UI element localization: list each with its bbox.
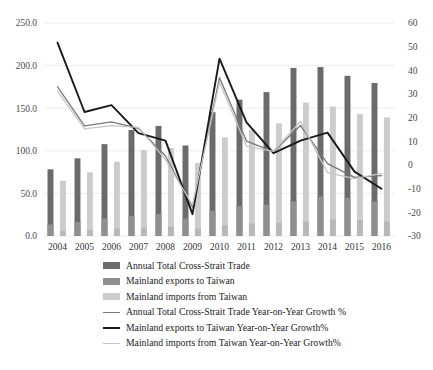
- bar-exports: [264, 205, 270, 236]
- bar-exports-shadow: [249, 223, 255, 236]
- x-axis-ticks: 2004200520062007200820092010201120122013…: [48, 242, 391, 252]
- legend-item-label: Mainland imports from Taiwan: [126, 292, 247, 302]
- bar-imports: [384, 117, 390, 236]
- bar-exports-shadow: [195, 229, 201, 236]
- bar-exports-shadow: [60, 231, 66, 236]
- right-axis-ticks: -30-20-100102030405060: [408, 18, 421, 241]
- left-tick-label: 200.0: [16, 61, 38, 71]
- bar-imports: [60, 181, 66, 236]
- bar-exports: [210, 211, 216, 236]
- right-tick-label: 40: [408, 66, 418, 76]
- bar-exports: [156, 214, 162, 236]
- legend-item[interactable]: Annual Total Cross-Strait Trade: [0, 258, 433, 274]
- legend-item-label: Mainland imports from Taiwan Year-on-Yea…: [126, 338, 341, 348]
- legend-item-label: Annual Total Cross-Strait Trade: [126, 261, 250, 271]
- bar-exports-shadow: [222, 225, 228, 236]
- x-tick-label: 2016: [372, 242, 391, 252]
- bar-exports-shadow: [168, 227, 174, 236]
- x-tick-label: 2011: [237, 242, 256, 252]
- bar-imports: [330, 106, 336, 236]
- left-tick-label: 150.0: [16, 104, 38, 114]
- bar-imports: [114, 162, 120, 236]
- bar-exports-shadow: [276, 223, 282, 236]
- combo-chart-svg: 0.050.0100.0150.0200.0250.0 -30-20-10010…: [0, 0, 433, 252]
- legend-item[interactable]: Mainland imports from Taiwan Year-on-Yea…: [0, 336, 433, 352]
- x-tick-label: 2015: [345, 242, 364, 252]
- bar-exports: [48, 224, 54, 236]
- bar-exports-shadow: [384, 222, 390, 236]
- bar-exports: [318, 197, 324, 236]
- right-tick-label: -30: [408, 231, 421, 241]
- legend-bar-swatch: [103, 293, 120, 300]
- x-tick-label: 2014: [318, 242, 337, 252]
- legend-item[interactable]: Annual Total Cross-Strait Trade Year-on-…: [0, 305, 433, 321]
- legend-item[interactable]: Mainland exports to Taiwan: [0, 274, 433, 290]
- bar-exports-shadow: [141, 228, 147, 236]
- bar-exports: [372, 202, 378, 236]
- legend-bar-swatch: [103, 262, 120, 269]
- gridlines: [44, 23, 395, 236]
- right-tick-label: 60: [408, 18, 418, 28]
- x-tick-label: 2010: [210, 242, 229, 252]
- bar-exports-shadow: [87, 230, 93, 236]
- right-tick-label: -10: [408, 184, 421, 194]
- chart-legend: Annual Total Cross-Strait TradeMainland …: [0, 258, 433, 351]
- bar-exports: [237, 206, 243, 236]
- legend-line-swatch: [103, 327, 120, 329]
- right-tick-label: 50: [408, 42, 418, 52]
- bar-imports: [87, 172, 93, 236]
- legend-item[interactable]: Mainland imports from Taiwan: [0, 289, 433, 305]
- bar-exports: [129, 216, 135, 236]
- legend-item-label: Annual Total Cross-Strait Trade Year-on-…: [126, 307, 346, 317]
- right-tick-label: 30: [408, 89, 418, 99]
- bar-imports: [303, 103, 309, 236]
- right-tick-label: -20: [408, 208, 421, 218]
- plot-area: 0.050.0100.0150.0200.0250.0 -30-20-10010…: [0, 0, 433, 252]
- legend-item-label: Mainland exports to Taiwan Year-on-Year …: [126, 323, 328, 333]
- left-tick-label: 50.0: [20, 189, 37, 199]
- left-tick-label: 100.0: [16, 146, 38, 156]
- left-tick-label: 0.0: [25, 231, 37, 241]
- x-tick-label: 2009: [183, 242, 202, 252]
- legend-line-swatch: [103, 312, 120, 313]
- left-axis-ticks: 0.050.0100.0150.0200.0250.0: [16, 18, 38, 241]
- bar-exports: [183, 219, 189, 236]
- bar-imports: [222, 137, 228, 236]
- x-tick-label: 2005: [75, 242, 94, 252]
- x-tick-label: 2004: [48, 242, 67, 252]
- x-tick-label: 2007: [129, 242, 148, 252]
- x-tick-label: 2013: [291, 242, 310, 252]
- legend-line-swatch: [103, 343, 120, 344]
- bar-exports-shadow: [330, 219, 336, 236]
- bar-exports: [345, 198, 351, 236]
- bar-exports: [291, 201, 297, 236]
- right-tick-label: 10: [408, 137, 418, 147]
- x-tick-label: 2006: [102, 242, 121, 252]
- bar-exports-shadow: [114, 229, 120, 236]
- legend-bar-swatch: [103, 278, 120, 285]
- bar-imports: [249, 130, 255, 236]
- bar-exports-shadow: [357, 220, 363, 236]
- bar-series-group: [48, 67, 390, 236]
- bar-imports: [141, 150, 147, 236]
- bar-exports: [102, 218, 108, 236]
- legend-item-label: Mainland exports to Taiwan: [126, 276, 235, 286]
- bar-exports-shadow: [303, 221, 309, 236]
- left-tick-label: 250.0: [16, 18, 38, 28]
- x-tick-label: 2008: [156, 242, 175, 252]
- right-tick-label: 20: [408, 113, 418, 123]
- bar-exports: [75, 222, 81, 236]
- bar-imports: [276, 123, 282, 236]
- right-tick-label: 0: [408, 160, 413, 170]
- chart-root: 0.050.0100.0150.0200.0250.0 -30-20-10010…: [0, 0, 433, 370]
- legend-item[interactable]: Mainland exports to Taiwan Year-on-Year …: [0, 320, 433, 336]
- x-tick-label: 2012: [264, 242, 283, 252]
